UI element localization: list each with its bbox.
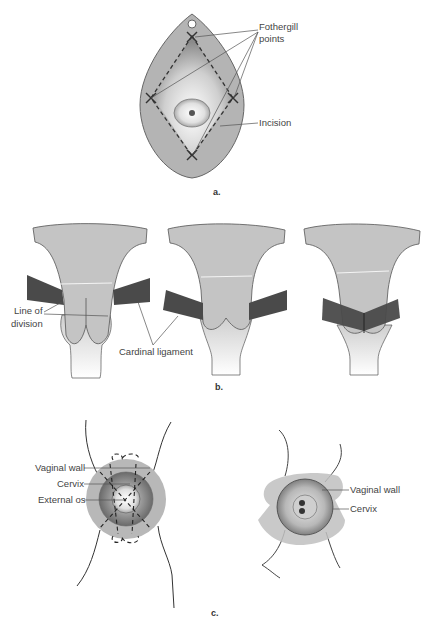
label-external-os: External os bbox=[38, 494, 86, 505]
surgical-diagram: Fothergill points Incision a. Line of d bbox=[0, 0, 426, 626]
label-line-of: Line of bbox=[14, 305, 43, 316]
os-ring-right bbox=[293, 495, 317, 519]
ligament-2-left bbox=[163, 290, 203, 320]
label-cardinal-ligament: Cardinal ligament bbox=[119, 346, 193, 357]
ligament-2-right bbox=[249, 290, 287, 320]
label-cervix-left: Cervix bbox=[57, 478, 84, 489]
label-division: division bbox=[11, 318, 43, 329]
label-vaginal-wall-right: Vaginal wall bbox=[350, 484, 400, 495]
label-fothergill: Fothergill bbox=[259, 21, 298, 32]
label-incision: Incision bbox=[259, 117, 291, 128]
panel-c-right: Vaginal wall Cervix bbox=[258, 430, 400, 578]
label-cervix-right: Cervix bbox=[350, 503, 377, 514]
panel-c-left: Vaginal wall Cervix External os bbox=[35, 420, 174, 608]
external-os bbox=[189, 110, 195, 116]
caption-a: a. bbox=[213, 187, 221, 197]
panel-a: Fothergill points Incision a. bbox=[140, 14, 298, 197]
panel-b-uterus-3 bbox=[304, 224, 420, 375]
label-vaginal-wall-left: Vaginal wall bbox=[35, 462, 85, 473]
label-points: points bbox=[259, 33, 285, 44]
caption-c: c. bbox=[211, 608, 219, 618]
urethral-meatus bbox=[188, 20, 196, 28]
ligament-1-left bbox=[27, 275, 64, 305]
ligament-1-right bbox=[113, 278, 150, 305]
caption-b: b. bbox=[215, 382, 223, 392]
